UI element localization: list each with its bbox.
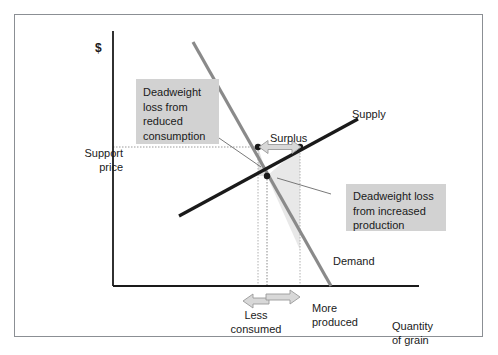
less-consumed-arrow (243, 294, 269, 308)
supply-demand-plot (15, 15, 482, 336)
surplus-label: Surplus (270, 132, 307, 146)
figure-container: $ Support price Supply Demand Surplus Qu… (0, 0, 498, 355)
demand-curve-label: Demand (333, 255, 375, 269)
support-price-axis-label: Support price (79, 147, 123, 174)
y-axis-title: $ (95, 42, 102, 56)
callout-deadweight-loss-increased-production: Deadweight loss from increased productio… (346, 184, 446, 231)
less-consumed-label: Less consumed (229, 309, 283, 336)
figure-frame: $ Support price Supply Demand Surplus Qu… (14, 14, 483, 337)
point-market-equilibrium (264, 173, 270, 179)
x-axis-title: Quantity of grain (392, 320, 433, 347)
callout-deadweight-loss-reduced-consumption: Deadweight loss from reduced consumption (136, 79, 219, 144)
shaded-region-increased-production (267, 147, 300, 250)
more-produced-arrow (266, 290, 300, 304)
more-produced-label: More produced (312, 302, 364, 329)
supply-curve-label: Supply (352, 108, 386, 122)
